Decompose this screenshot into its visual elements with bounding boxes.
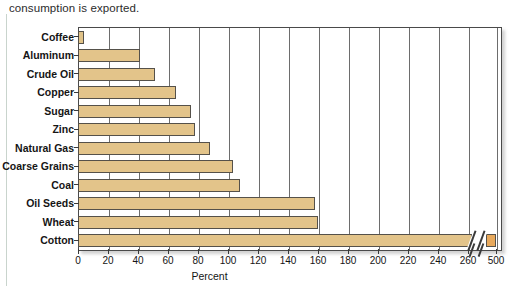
bar-coffee (78, 31, 84, 44)
bar-zinc (78, 123, 195, 136)
x-tick (78, 249, 79, 254)
x-tick-label-40: 40 (132, 255, 143, 266)
x-tick-label-180: 180 (340, 255, 357, 266)
x-tick (318, 249, 319, 254)
x-tick-label-80: 80 (192, 255, 203, 266)
x-axis-title-text: Percent (191, 270, 227, 282)
bar-row (78, 160, 500, 173)
chart-y-axis: CoffeeAluminumCrude OilCopperSugarZincNa… (0, 27, 74, 249)
x-tick-label-160: 160 (310, 255, 327, 266)
y-tick (74, 221, 79, 222)
x-tick-label-120: 120 (250, 255, 267, 266)
y-tick (74, 184, 79, 185)
x-tick-label-220: 220 (400, 255, 417, 266)
bar-crude-oil (78, 68, 155, 81)
y-axis-label-coarse-grains: Coarse Grains (2, 161, 74, 172)
x-tick-label-100: 100 (220, 255, 237, 266)
x-tick (496, 249, 497, 254)
x-tick-label-500: 500 (488, 255, 505, 266)
bar-row (78, 49, 500, 62)
y-axis-label-coffee: Coffee (41, 32, 74, 43)
x-tick-label-60: 60 (162, 255, 173, 266)
y-tick (74, 73, 79, 74)
chart-bars (78, 27, 500, 249)
x-tick-label-240: 240 (430, 255, 447, 266)
x-tick (258, 249, 259, 254)
x-tick (108, 249, 109, 254)
x-tick (438, 249, 439, 254)
y-tick (74, 92, 79, 93)
x-tick (198, 249, 199, 254)
x-tick (168, 249, 169, 254)
y-axis-label-crude-oil: Crude Oil (27, 69, 74, 80)
x-tick-label-0: 0 (75, 255, 81, 266)
chart-x-tick-labels: 020406080100120140160180200220240260500 (0, 255, 515, 269)
y-axis-label-coal: Coal (51, 180, 74, 191)
bar-row (78, 105, 500, 118)
x-tick (228, 249, 229, 254)
bar-copper (78, 86, 176, 99)
bar-row (78, 197, 500, 210)
x-tick (378, 249, 379, 254)
bar-natural-gas (78, 142, 210, 155)
x-tick-label-140: 140 (280, 255, 297, 266)
y-axis-label-sugar: Sugar (44, 106, 74, 117)
y-tick (74, 110, 79, 111)
bar-coal (78, 179, 240, 192)
y-tick (74, 55, 79, 56)
x-tick (408, 249, 409, 254)
caption-text: consumption is exported. (9, 2, 139, 14)
y-axis-label-aluminum: Aluminum (23, 50, 74, 61)
y-axis-label-cotton: Cotton (40, 235, 74, 246)
bar-row (78, 179, 500, 192)
y-axis-label-oil-seeds: Oil Seeds (26, 198, 74, 209)
bar-wheat (78, 216, 318, 229)
y-tick (74, 129, 79, 130)
bar-row (78, 123, 500, 136)
bar-oil-seeds (78, 197, 315, 210)
x-tick (288, 249, 289, 254)
bar-row (78, 86, 500, 99)
x-tick-label-260: 260 (460, 255, 477, 266)
bar-cotton-extension (486, 234, 496, 247)
y-tick (74, 203, 79, 204)
y-axis-label-zinc: Zinc (52, 124, 74, 135)
y-axis-label-copper: Copper (37, 87, 74, 98)
y-axis-label-wheat: Wheat (43, 217, 75, 228)
y-tick (74, 240, 79, 241)
bar-coarse-grains (78, 160, 233, 173)
y-axis-label-natural-gas: Natural Gas (15, 143, 74, 154)
y-tick (74, 36, 79, 37)
bar-cotton (78, 234, 472, 247)
chart-x-axis-title: Percent (0, 270, 515, 282)
bar-row (78, 68, 500, 81)
bar-row (78, 234, 500, 247)
bar-aluminum (78, 49, 140, 62)
x-tick-label-20: 20 (102, 255, 113, 266)
x-tick (138, 249, 139, 254)
x-tick (348, 249, 349, 254)
y-tick (74, 147, 79, 148)
bar-row (78, 142, 500, 155)
bar-sugar (78, 105, 191, 118)
x-tick-label-200: 200 (370, 255, 387, 266)
bar-row (78, 31, 500, 44)
bar-row (78, 216, 500, 229)
y-tick (74, 166, 79, 167)
